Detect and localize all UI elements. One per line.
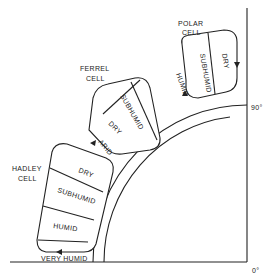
axis-label-0: 0°: [252, 267, 259, 274]
polar-cell-label-2: CELL: [182, 29, 201, 36]
ferrel-cell: SUBHUMID DRY ARID FERREL CELL: [80, 65, 160, 156]
arrow-icon: [90, 140, 96, 146]
hadley-cell-label-2: CELL: [18, 175, 37, 182]
hadley-cell-label-1: HADLEY: [12, 165, 42, 172]
circulation-diagram: 90° 0° SUBHUMID DRY HUMID POLAR CELL SUB…: [0, 0, 278, 278]
ferrel-cell-label-2: CELL: [86, 75, 105, 82]
hadley-edge-very-humid: VERY HUMID: [41, 255, 88, 262]
polar-cell: SUBHUMID DRY HUMID POLAR CELL: [175, 20, 240, 98]
polar-cell-label-1: POLAR: [178, 20, 203, 27]
hadley-cell: DRY SUBHUMID HUMID VERY HUMID HADLEY CEL…: [12, 144, 113, 262]
axis-label-90: 90°: [251, 104, 263, 111]
ferrel-cell-label-1: FERREL: [80, 65, 109, 72]
